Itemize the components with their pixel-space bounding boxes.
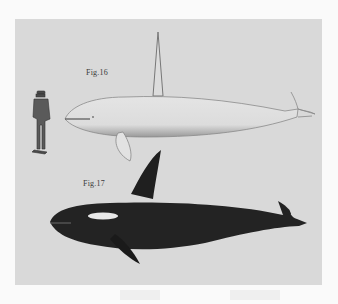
human-figure xyxy=(32,91,50,154)
whale-illustrations xyxy=(15,19,322,285)
figure-16-label: Fig.16 xyxy=(86,68,108,77)
figure-17-label: Fig.17 xyxy=(83,179,105,188)
illustration-plate: Fig.16 Fig.17 xyxy=(15,19,322,285)
orca xyxy=(50,150,307,264)
bleed-through-text xyxy=(230,290,280,300)
bleed-through-text xyxy=(120,290,160,300)
tusked-whale xyxy=(65,32,315,161)
